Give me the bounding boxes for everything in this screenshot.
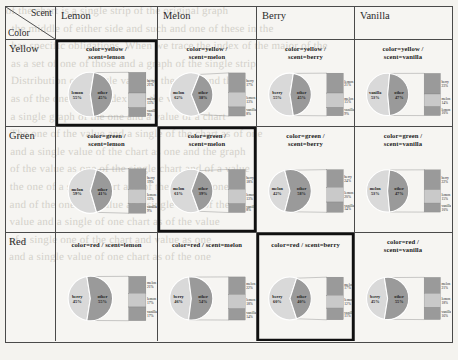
svg-text:16%: 16%	[441, 314, 448, 318]
svg-text:24%: 24%	[344, 179, 351, 183]
svg-text:9%: 9%	[147, 209, 152, 213]
matrix-row-green: Green color=green /scent=lemon melon 59%…	[6, 127, 452, 233]
corner-header-cell: Scent Color	[6, 7, 56, 39]
cell-red-melon[interactable]: color=red / scent=melon berry 46% other …	[158, 233, 257, 341]
svg-text:14%: 14%	[246, 315, 253, 319]
svg-text:15%: 15%	[344, 100, 351, 104]
chart-graphic: berry 60% other 40% melon17%lemon12%vani…	[257, 255, 354, 340]
svg-text:53%: 53%	[371, 95, 379, 100]
svg-text:23%: 23%	[441, 84, 448, 88]
row-header-yellow: Yellow	[6, 40, 56, 126]
pie-of-pie-chart-green-berry: color=green /scent=berry melon 42% other…	[257, 127, 354, 232]
svg-text:18%: 18%	[441, 301, 448, 305]
chart-title: color=yellow /scent=berry	[257, 45, 354, 62]
cell-yellow-lemon[interactable]: color=yellow /scent=lemon lemon 55% othe…	[56, 40, 158, 126]
pie-of-pie-chart-green-vanilla: color=green /scent=vanilla melon 53% oth…	[355, 127, 451, 232]
svg-text:9%: 9%	[344, 112, 349, 116]
column-header-melon: Melon	[158, 7, 257, 39]
cell-green-melon[interactable]: color=green /scent=melon melon 61% other…	[158, 127, 257, 232]
svg-text:17%: 17%	[246, 83, 253, 87]
svg-text:55%: 55%	[73, 95, 82, 100]
chart-graphic: melon 53% other 47% berry22%lemon15%vani…	[355, 149, 451, 231]
chart-title: color=yellow /scent=lemon	[56, 45, 157, 62]
pie-of-pie-chart-green-melon: color=green /scent=melon melon 61% other…	[158, 127, 256, 232]
svg-text:47%: 47%	[395, 191, 403, 196]
svg-text:46%: 46%	[174, 299, 183, 304]
cell-red-lemon[interactable]: color=red / scent=lemon berry 45% other …	[56, 233, 158, 341]
svg-text:17%: 17%	[147, 314, 154, 318]
svg-text:62%: 62%	[174, 95, 183, 100]
pie-of-pie-chart-yellow-vanilla: color=yellow /scent=vanilla vanilla 53% …	[355, 40, 451, 126]
svg-text:9%: 9%	[147, 113, 152, 117]
chart-title: color=red / scent=lemon	[56, 241, 157, 249]
svg-text:21%: 21%	[441, 286, 448, 290]
column-header-berry: Berry	[257, 7, 355, 39]
matrix-header-row: Scent Color Lemon Melon Berry Vanilla	[6, 7, 452, 40]
svg-text:45%: 45%	[297, 95, 306, 100]
chart-graphic: vanilla 53% other 47% berry23%melon14%le…	[355, 62, 451, 125]
cell-yellow-berry[interactable]: color=yellow /scent=berry berry 55% othe…	[257, 40, 355, 126]
trellis-matrix: Scent Color Lemon Melon Berry Vanilla Ye…	[5, 6, 453, 343]
svg-text:22%: 22%	[246, 286, 253, 290]
cell-red-vanilla[interactable]: color=red /scent=vanilla berry 45% other…	[355, 233, 451, 341]
row-header-red: Red	[6, 233, 56, 341]
corner-color-label: Color	[8, 28, 30, 38]
cell-green-berry[interactable]: color=green /scent=berry melon 42% other…	[257, 127, 355, 232]
svg-text:20%: 20%	[344, 195, 351, 199]
pie-of-pie-chart-green-lemon: color=green /scent=lemon melon 59% other…	[56, 127, 157, 232]
svg-text:18%: 18%	[246, 302, 253, 306]
svg-text:22%: 22%	[441, 180, 448, 184]
svg-text:18%: 18%	[246, 180, 253, 184]
svg-text:61%: 61%	[174, 191, 183, 196]
svg-text:38%: 38%	[199, 95, 208, 100]
pie-of-pie-chart-yellow-berry: color=yellow /scent=berry berry 55% othe…	[257, 40, 354, 126]
cell-yellow-vanilla[interactable]: color=yellow /scent=vanilla vanilla 53% …	[355, 40, 451, 126]
chart-title: color=red /scent=vanilla	[355, 238, 451, 255]
svg-text:19%: 19%	[147, 180, 154, 184]
cell-green-lemon[interactable]: color=green /scent=lemon melon 59% other…	[56, 127, 158, 232]
svg-text:10%: 10%	[441, 208, 448, 212]
svg-text:59%: 59%	[73, 191, 82, 196]
svg-text:15%: 15%	[441, 197, 448, 201]
pie-of-pie-chart-red-vanilla: color=red /scent=vanilla berry 45% other…	[355, 233, 451, 341]
chart-title: color=green /scent=melon	[158, 132, 256, 149]
svg-text:45%: 45%	[371, 299, 379, 304]
svg-text:14%: 14%	[441, 101, 448, 105]
svg-text:41%: 41%	[98, 191, 107, 196]
corner-scent-label: Scent	[31, 8, 52, 18]
pie-of-pie-chart-yellow-lemon: color=yellow /scent=lemon lemon 55% othe…	[56, 40, 157, 126]
cell-yellow-melon[interactable]: color=yellow /scent=melon melon 62% othe…	[158, 40, 257, 126]
svg-text:54%: 54%	[199, 299, 208, 304]
chart-title: color=green /scent=vanilla	[355, 132, 451, 149]
chart-graphic: melon 59% other 41% berry19%lemon13%vani…	[56, 149, 157, 231]
chart-title: color=yellow /scent=melon	[158, 45, 256, 62]
svg-text:21%: 21%	[344, 83, 351, 87]
cell-red-berry[interactable]: color=red / scent=berry berry 60% other …	[257, 233, 355, 341]
svg-text:13%: 13%	[147, 197, 154, 201]
svg-text:45%: 45%	[73, 299, 82, 304]
svg-text:13%: 13%	[246, 197, 253, 201]
svg-text:47%: 47%	[395, 95, 403, 100]
chart-graphic: berry 45% other 55% melon21%lemon17%vani…	[56, 255, 157, 340]
chart-title: color=yellow /scent=vanilla	[355, 45, 451, 62]
svg-text:53%: 53%	[371, 191, 379, 196]
matrix-row-yellow: Yellow color=yellow /scent=lemon lemon 5…	[6, 40, 452, 127]
chart-title: color=green /scent=lemon	[56, 132, 157, 149]
pie-of-pie-chart-red-melon: color=red / scent=melon berry 46% other …	[158, 233, 256, 341]
svg-text:17%: 17%	[147, 301, 154, 305]
svg-text:60%: 60%	[273, 299, 282, 304]
pie-of-pie-chart-red-berry: color=red / scent=berry berry 60% other …	[257, 233, 354, 341]
cell-green-vanilla[interactable]: color=green /scent=vanilla melon 53% oth…	[355, 127, 451, 232]
pie-of-pie-chart-red-lemon: color=red / scent=lemon berry 45% other …	[56, 233, 157, 341]
svg-text:40%: 40%	[297, 299, 306, 304]
svg-text:10%: 10%	[441, 111, 448, 115]
matrix-row-red: Red color=red / scent=lemon berry 45% ot…	[6, 233, 452, 341]
svg-text:39%: 39%	[199, 191, 208, 196]
svg-text:12%: 12%	[344, 302, 351, 306]
column-header-lemon: Lemon	[56, 7, 158, 39]
svg-text:21%: 21%	[147, 285, 154, 289]
svg-text:58%: 58%	[297, 191, 306, 196]
svg-text:42%: 42%	[273, 191, 282, 196]
pie-of-pie-chart-yellow-melon: color=yellow /scent=melon melon 62% othe…	[158, 40, 256, 126]
chart-title: color=red / scent=melon	[158, 241, 256, 249]
